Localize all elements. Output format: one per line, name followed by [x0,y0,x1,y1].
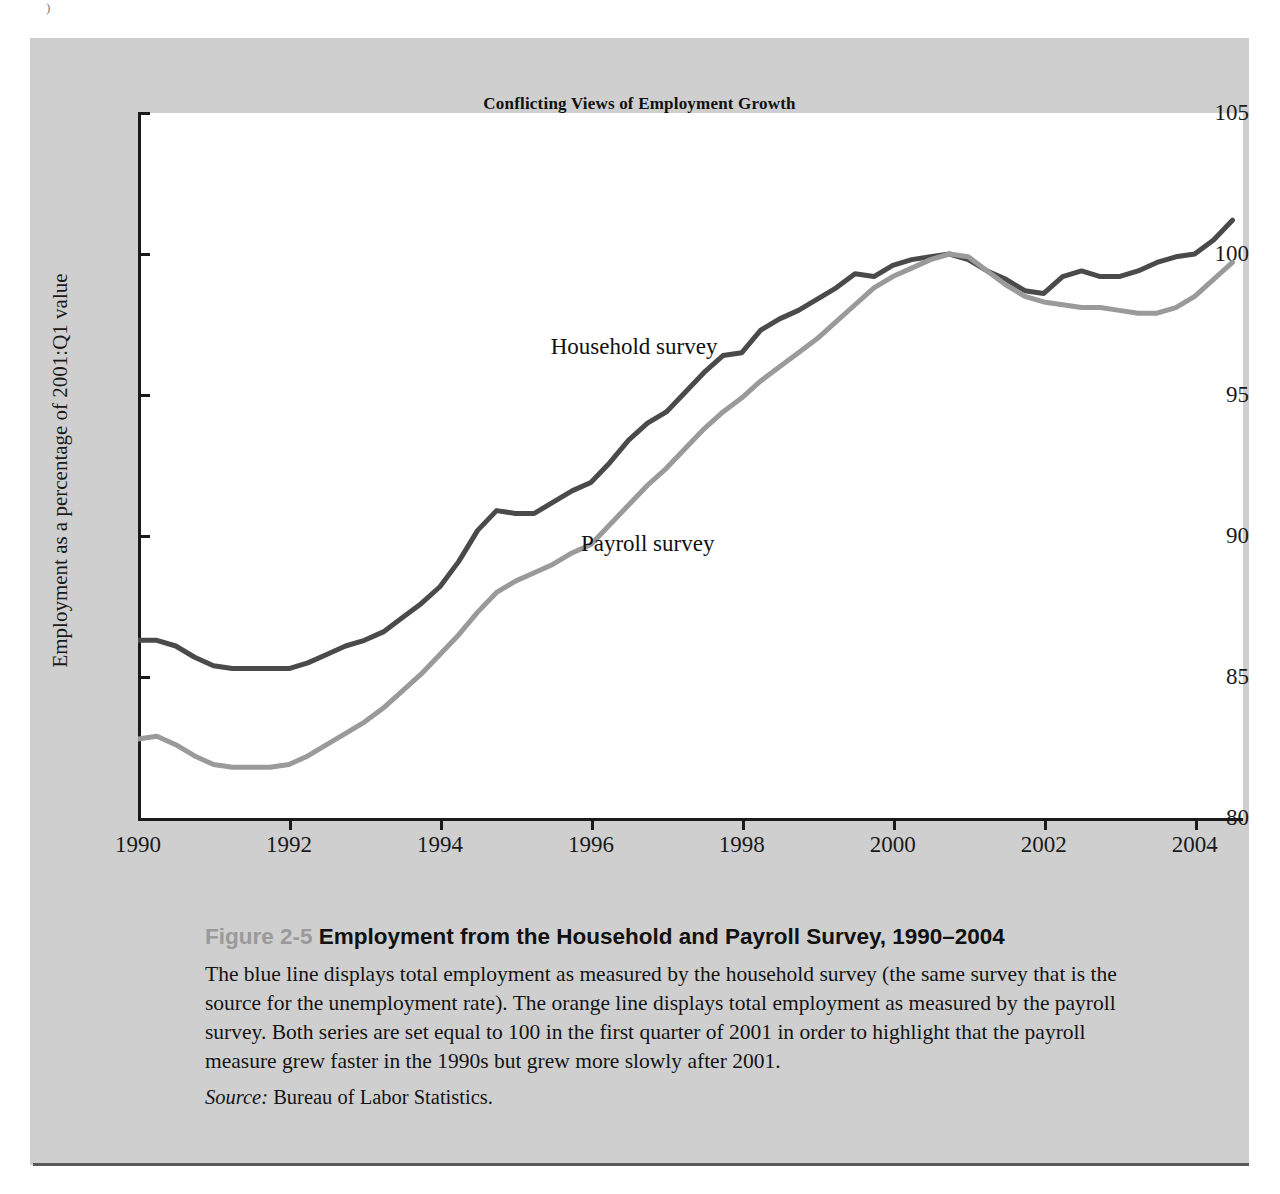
x-tick-label: 2000 [838,832,948,858]
figure-page: ) Conflicting Views of Employment Growth… [0,0,1280,1194]
caption-title: Employment from the Household and Payrol… [319,924,1005,949]
plot-area: 8085909510010519901992199419961998200020… [30,38,1249,938]
x-tick-mark [893,818,896,830]
x-tick-label: 1990 [83,832,193,858]
caption-figure-number: Figure 2-5 [205,924,313,949]
series-line-household-survey [138,220,1232,668]
caption-source: Source: Bureau of Labor Statistics. [205,1086,1125,1109]
caption-source-label: Source: [205,1086,268,1108]
x-tick-mark [289,818,292,830]
y-axis-title: Employment as a percentage of 2001:Q1 va… [48,151,73,791]
series-lines [138,113,1240,818]
caption-body: The blue line displays total employment … [205,960,1125,1075]
series-label-payroll-survey: Payroll survey [581,531,715,557]
caption-heading: Figure 2-5 Employment from the Household… [205,922,1125,951]
figure-panel: Conflicting Views of Employment Growth 8… [30,38,1249,1165]
page-crumb: ) [46,0,50,16]
x-tick-label: 1992 [234,832,344,858]
figure-caption: Figure 2-5 Employment from the Household… [205,922,1125,1109]
x-tick-label: 1996 [536,832,646,858]
x-tick-label: 2002 [989,832,1099,858]
panel-bottom-rule [33,1163,1249,1166]
x-tick-mark [1044,818,1047,830]
x-tick-label: 1998 [687,832,797,858]
x-tick-label: 1994 [385,832,495,858]
caption-source-value: Bureau of Labor Statistics. [273,1086,493,1108]
x-tick-mark [591,818,594,830]
x-tick-mark [440,818,443,830]
x-tick-mark [1195,818,1198,830]
x-tick-mark [742,818,745,830]
x-tick-label: 2004 [1140,832,1250,858]
series-label-household-survey: Household survey [551,334,718,360]
series-line-payroll-survey [138,254,1232,767]
